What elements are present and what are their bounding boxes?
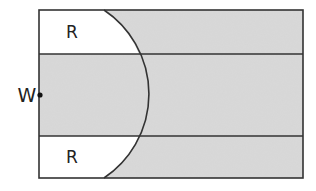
- label-w: W: [18, 84, 37, 106]
- point-w-dot: [37, 92, 42, 97]
- label-r-top: R: [66, 22, 78, 42]
- label-r-bottom: R: [66, 147, 78, 167]
- diagram: R R W: [0, 0, 316, 191]
